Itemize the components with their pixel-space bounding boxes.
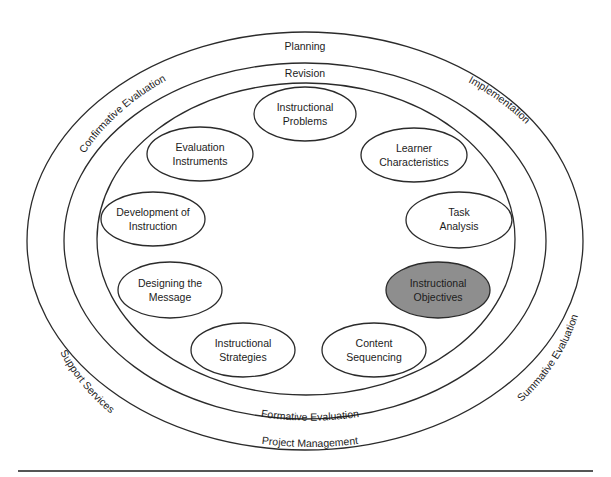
svg-text:Instruction: Instruction <box>129 220 178 232</box>
node-content-sequencing: Content Sequencing <box>322 323 426 377</box>
svg-text:Objectives: Objectives <box>413 291 462 303</box>
svg-text:Sequencing: Sequencing <box>346 351 402 363</box>
ring-label-summative-evaluation: Summative Evaluation <box>515 312 580 403</box>
svg-text:Instruments: Instruments <box>173 155 228 167</box>
ring-label-support-services: Support Services <box>58 347 117 415</box>
svg-text:Strategies: Strategies <box>219 351 266 363</box>
svg-text:Instructional: Instructional <box>215 337 272 349</box>
svg-text:Problems: Problems <box>283 115 327 127</box>
node-instructional-objectives: Instructional Objectives <box>386 262 490 318</box>
node-development-of-instruction: Development of Instruction <box>101 192 205 246</box>
svg-text:Characteristics: Characteristics <box>379 156 448 168</box>
svg-text:Development of: Development of <box>116 206 190 218</box>
svg-text:Instructional: Instructional <box>277 101 334 113</box>
node-task-analysis: Task Analysis <box>406 192 512 248</box>
node-instructional-problems: Instructional Problems <box>254 87 356 141</box>
svg-text:Evaluation: Evaluation <box>175 141 224 153</box>
node-evaluation-instruments: Evaluation Instruments <box>147 127 253 181</box>
ring-label-revision: Revision <box>285 67 325 79</box>
ring-label-formative-evaluation: Formative Evaluation <box>260 407 359 423</box>
ring-label-project-management: Project Management <box>261 434 358 449</box>
svg-text:Task: Task <box>448 206 470 218</box>
ring-label-planning: Planning <box>285 40 326 52</box>
svg-text:Learner: Learner <box>396 142 433 154</box>
svg-text:Instructional: Instructional <box>410 277 467 289</box>
svg-text:Content: Content <box>356 337 393 349</box>
node-instructional-strategies: Instructional Strategies <box>191 323 295 377</box>
node-learner-characteristics: Learner Characteristics <box>361 128 467 182</box>
node-designing-the-message: Designing the Message <box>118 262 222 318</box>
svg-text:Message: Message <box>149 291 192 303</box>
instructional-design-model-diagram: Planning Confirmative Evaluation Impleme… <box>0 0 611 477</box>
svg-text:Designing the: Designing the <box>138 277 202 289</box>
svg-text:Analysis: Analysis <box>439 220 478 232</box>
ring-label-implementation: Implementation <box>467 73 533 125</box>
